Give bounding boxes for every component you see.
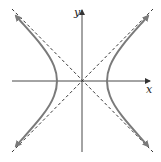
- y-axis-label: y: [73, 6, 81, 19]
- x-axis-label: x: [146, 83, 153, 96]
- hyperbola-diagram: y x: [0, 0, 161, 162]
